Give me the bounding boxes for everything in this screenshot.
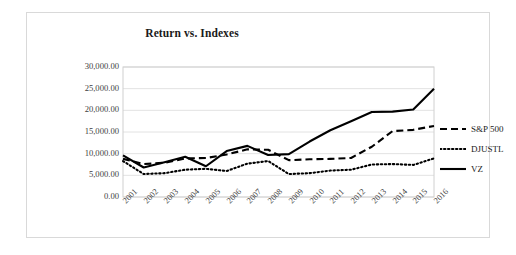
legend-swatch-vz <box>440 164 466 174</box>
legend-item-vz[interactable]: VZ <box>440 159 516 179</box>
legend-item-djustl[interactable]: DJUSTL <box>440 139 516 159</box>
x-axis: 2001200220032004200520062007200820092010… <box>123 199 434 243</box>
y-tick-label: 20,000.00 <box>47 104 119 114</box>
legend-swatch-s-p-500 <box>440 124 466 134</box>
legend-item-s-p-500[interactable]: S&P 500 <box>440 119 516 139</box>
y-tick-label: 0.00 <box>47 191 119 201</box>
plot-area <box>123 67 434 197</box>
y-tick-label: 15,000.00 <box>47 126 119 136</box>
y-tick-label: 5,000.00 <box>47 169 119 179</box>
plot-canvas <box>123 67 434 197</box>
y-tick-label: 25,000.00 <box>47 83 119 93</box>
legend-swatch-djustl <box>440 144 466 154</box>
x-tick-label: 2016 <box>432 187 450 205</box>
legend-label-vz: VZ <box>471 164 483 174</box>
legend-label-s-p-500: S&P 500 <box>471 124 503 134</box>
y-tick-label: 30,000.00 <box>47 61 119 71</box>
legend-label-djustl: DJUSTL <box>471 144 504 154</box>
chart-title: Return vs. Indexes <box>27 27 357 39</box>
y-axis: 30,000.0025,000.0020,000.0015,000.0010,0… <box>43 67 119 197</box>
chart-legend: S&P 500DJUSTLVZ <box>440 119 516 179</box>
chart-frame: Return vs. Indexes 30,000.0025,000.0020,… <box>26 12 490 238</box>
y-tick-label: 10,000.00 <box>47 148 119 158</box>
